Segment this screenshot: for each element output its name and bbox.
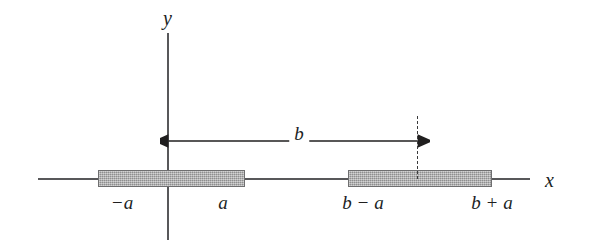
y-axis-label: y (163, 8, 172, 28)
x-axis-label: x (545, 170, 554, 190)
tick-label-b-plus-a: b + a (471, 193, 512, 212)
left-slab (98, 170, 245, 187)
right-slab (348, 170, 492, 187)
tick-label-neg-a: −a (111, 193, 133, 212)
dashed-reference-line-icon (417, 116, 418, 179)
tick-label-pos-a: a (218, 193, 228, 212)
physics-slab-diagram: y x b −a a b − a b + a (0, 0, 596, 240)
tick-label-b-minus-a: b − a (342, 193, 383, 212)
dimension-label-b: b (289, 124, 309, 143)
